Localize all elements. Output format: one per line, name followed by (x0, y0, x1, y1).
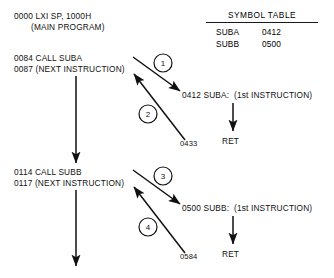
step-number-3: 3 (161, 172, 166, 181)
diagram-canvas: 0000 LXI SP, 1000H (MAIN PROGRAM) 0084 C… (0, 0, 334, 278)
step-number-2: 2 (146, 110, 151, 119)
step-number-4: 4 (146, 223, 151, 232)
step-number-1: 1 (161, 59, 166, 68)
flow-arrow-layer: 1 2 3 4 (0, 0, 334, 278)
